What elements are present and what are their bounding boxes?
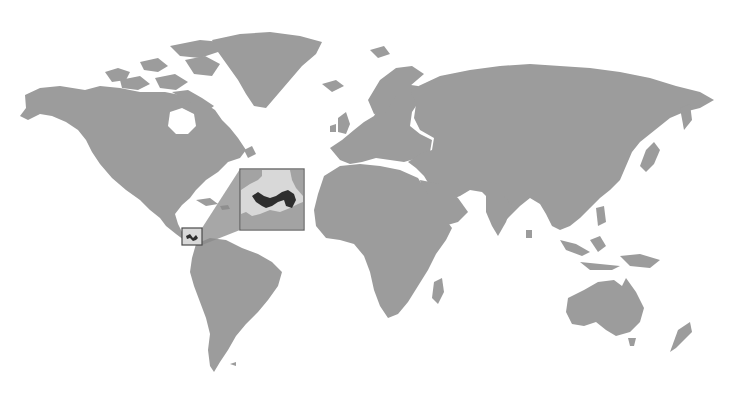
asia — [408, 64, 714, 270]
europe — [322, 46, 432, 164]
locator-box — [182, 228, 202, 245]
oceania — [566, 278, 692, 352]
south-america — [190, 238, 282, 372]
inset-panama — [240, 169, 304, 230]
world-map — [0, 0, 735, 415]
inset-connector — [202, 169, 240, 245]
